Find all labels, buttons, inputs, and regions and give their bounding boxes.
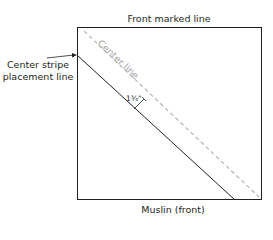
bottom-label: Muslin (front) — [141, 204, 205, 215]
diagram-canvas: Front marked line Muslin (front) Center … — [0, 0, 273, 240]
measurement-label: 1¾" — [126, 94, 142, 103]
left-label-line1: Center stripe — [7, 59, 69, 70]
pointer-arrow-line — [47, 55, 74, 58]
left-label-line2: placement line — [3, 71, 74, 82]
top-label: Front marked line — [127, 13, 210, 24]
pointer-arrowhead-icon — [72, 53, 77, 58]
center-stripe-placement-line — [77, 55, 235, 200]
center-line-label: Center line — [96, 37, 142, 81]
